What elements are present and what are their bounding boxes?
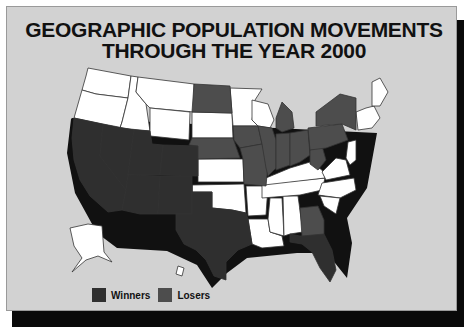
state-maine <box>372 78 388 106</box>
state-wyoming <box>150 108 190 140</box>
state-new-mexico <box>158 176 192 214</box>
state-new-england <box>356 106 380 130</box>
legend-label-losers: Losers <box>177 290 210 301</box>
state-mississippi <box>268 198 284 236</box>
state-north-dakota <box>192 84 232 113</box>
state-wisconsin <box>252 100 274 128</box>
us-map <box>0 0 468 329</box>
legend-swatch-winners <box>92 288 106 302</box>
state-michigan <box>276 102 294 132</box>
legend-label-winners: Winners <box>111 290 150 301</box>
legend: Winners Losers <box>92 288 218 302</box>
state-south-dakota <box>192 112 233 138</box>
state-kansas <box>198 159 244 182</box>
state-indiana <box>276 133 290 170</box>
state-hawaii <box>176 266 184 276</box>
state-arizona <box>122 175 160 214</box>
state-colorado <box>160 145 198 176</box>
state-new-york <box>316 94 356 130</box>
state-new-jersey <box>346 140 356 165</box>
legend-swatch-losers <box>158 288 172 302</box>
